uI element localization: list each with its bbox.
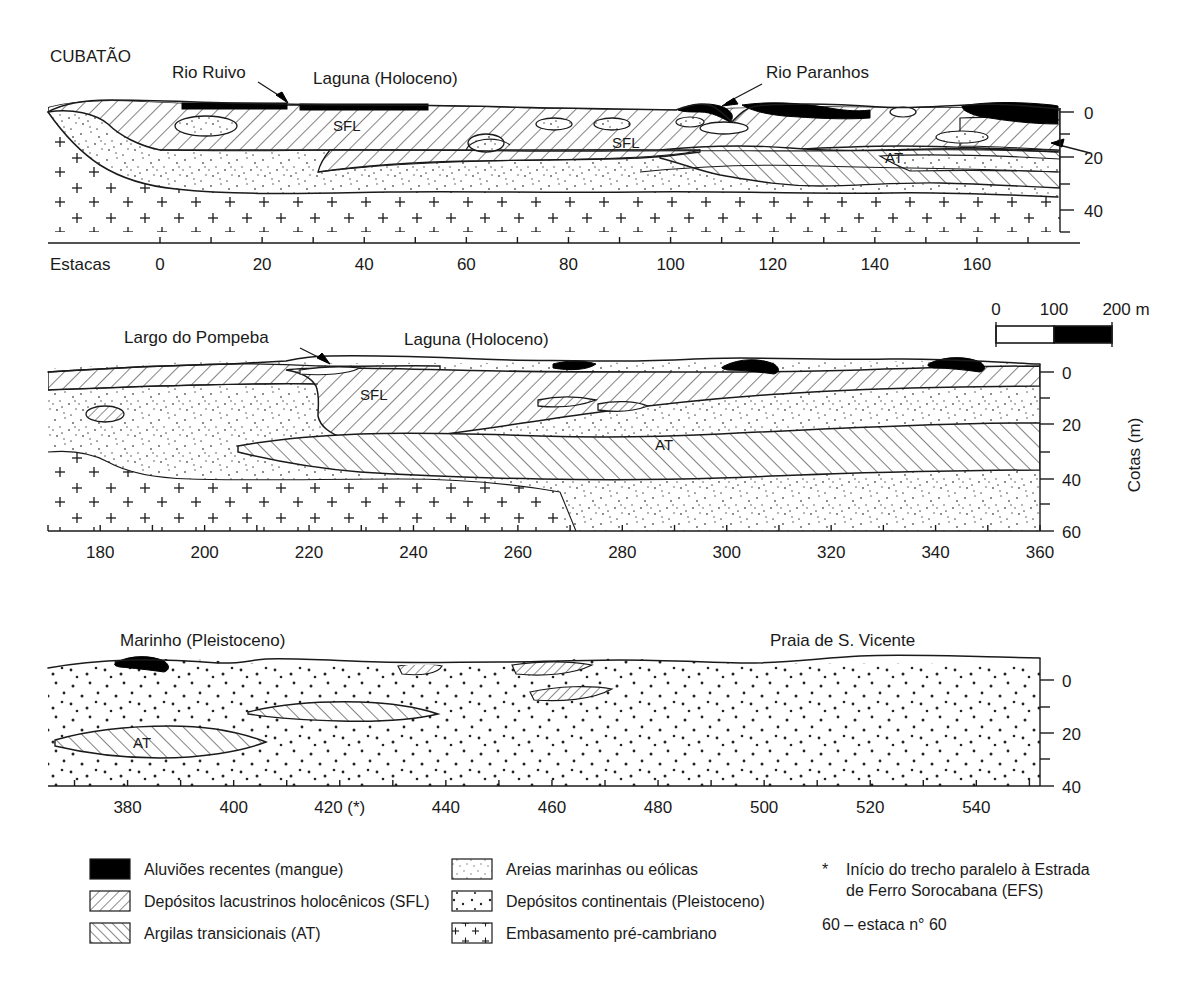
panel-1-label-rio-paranhos: Rio Paranhos xyxy=(766,63,869,82)
panel-1-x-tick-label: 60 xyxy=(457,255,476,274)
panel-3-label-praia: Praia de S. Vicente xyxy=(770,631,915,650)
panel-2-x-tick-label: 280 xyxy=(608,543,636,562)
panel-1-unit-sfl-left: SFL xyxy=(333,117,361,134)
panel-3-x-tick-label: 540 xyxy=(962,798,990,817)
panel-2-x-tick-label: 180 xyxy=(86,543,114,562)
legend-column-3: * Início do trecho paralelo à Estrada de… xyxy=(822,861,1090,933)
panel-3-y-ticks xyxy=(1040,680,1054,786)
scalebar-label-200: 200 m xyxy=(1102,300,1149,319)
legend-note-efs-line2: de Ferro Sorocabana (EFS) xyxy=(846,882,1043,899)
panel-1-ytick-20: 20 xyxy=(1084,149,1103,168)
panel-1-x-tick-label: 40 xyxy=(355,255,374,274)
panel-3-x-tick-label: 500 xyxy=(750,798,778,817)
panel-2-strata xyxy=(40,355,1050,535)
panel-3-ytick-0: 0 xyxy=(1062,672,1071,691)
panel-2-unit-at: AT xyxy=(655,436,673,453)
scalebar-label-0: 0 xyxy=(991,300,1000,319)
panel-2-x-tick-label: 300 xyxy=(713,543,741,562)
legend-column-1: Aluviões recentes (mangue) Depósitos lac… xyxy=(90,859,429,943)
panel-1-label-laguna: Laguna (Holoceno) xyxy=(313,69,458,88)
y-axis-title-cotas: Cotas (m) xyxy=(1125,418,1144,493)
panel-1-label-cubatao: CUBATÃO xyxy=(50,47,131,66)
estacas-label: Estacas xyxy=(50,255,110,274)
panel-3-x-tick-label: 460 xyxy=(538,798,566,817)
panel-3-unit-at: AT xyxy=(133,734,151,751)
scalebar-label-100: 100 xyxy=(1040,300,1068,319)
scale-bar: 0 100 200 m xyxy=(991,300,1149,347)
legend-swatch-solid-black xyxy=(90,859,130,879)
panel-2-ytick-40: 40 xyxy=(1062,471,1081,490)
legend-asterisk-marker: * xyxy=(822,861,828,878)
legend-item-continentais: Depósitos continentais (Pleistoceno) xyxy=(506,893,765,910)
legend-swatch-coarse-stipple xyxy=(452,891,492,911)
legend-item-sfl: Depósitos lacustrinos holocênicos (SFL) xyxy=(144,893,429,910)
panel-3: Marinho (Pleistoceno) Praia de S. Vicent… xyxy=(40,631,1081,817)
panel-2-unit-sfl: SFL xyxy=(360,386,388,403)
panel-2-label-largo-pompeba: Largo do Pompeba xyxy=(124,328,269,347)
panel-1-ytick-40: 40 xyxy=(1084,202,1103,221)
legend-note-efs-line1: Início do trecho paralelo à Estrada xyxy=(846,861,1090,878)
panel-3-label-marinho: Marinho (Pleistoceno) xyxy=(120,631,285,650)
panel-1-x-tick-label: 160 xyxy=(963,255,991,274)
figure-canvas: CUBATÃO Rio Ruivo Laguna (Holoceno) Rio … xyxy=(0,0,1178,1003)
panel-1-label-rio-ruivo: Rio Ruivo xyxy=(172,63,246,82)
panel-2: Largo do Pompeba Laguna (Holoceno) SFL A… xyxy=(40,328,1144,562)
legend-item-areias: Areias marinhas ou eólicas xyxy=(506,861,698,878)
panel-1-x-tick-labels: 020406080100120140160 xyxy=(155,255,991,274)
panel-2-ytick-20: 20 xyxy=(1062,416,1081,435)
panel-1-x-tick-label: 140 xyxy=(861,255,889,274)
panel-2-x-tick-label: 260 xyxy=(504,543,532,562)
panel-2-x-tick-label: 200 xyxy=(190,543,218,562)
panel-3-x-tick-label: 440 xyxy=(432,798,460,817)
panel-1-x-ticks xyxy=(160,237,1028,243)
panel-3-x-tick-label: 480 xyxy=(644,798,672,817)
legend-item-at: Argilas transicionais (AT) xyxy=(144,925,321,942)
panel-2-y-ticks xyxy=(1040,372,1054,531)
panel-2-x-tick-label: 340 xyxy=(921,543,949,562)
panel-3-x-tick-label: 520 xyxy=(856,798,884,817)
panel-1: CUBATÃO Rio Ruivo Laguna (Holoceno) Rio … xyxy=(40,47,1103,274)
panel-1-y-ticks xyxy=(1060,112,1074,232)
legend-swatch-plus-signs xyxy=(452,923,492,943)
panel-2-ytick-0: 0 xyxy=(1062,364,1071,383)
panel-2-x-tick-label: 320 xyxy=(817,543,845,562)
legend-item-embasamento: Embasamento pré-cambriano xyxy=(506,925,717,942)
panel-1-x-tick-label: 0 xyxy=(155,255,164,274)
geological-cross-section-figure: CUBATÃO Rio Ruivo Laguna (Holoceno) Rio … xyxy=(0,0,1178,1003)
panel-3-ytick-20: 20 xyxy=(1062,725,1081,744)
legend-swatch-hatch-forward xyxy=(90,891,130,911)
panel-1-x-tick-label: 100 xyxy=(656,255,684,274)
panel-3-ytick-40: 40 xyxy=(1062,778,1081,797)
panel-1-ytick-0: 0 xyxy=(1084,104,1093,123)
panel-2-x-tick-labels: 180200220240260280300320340360 xyxy=(86,543,1054,562)
legend-column-2: Areias marinhas ou eólicas Depósitos con… xyxy=(452,859,765,943)
panel-1-unit-at: AT xyxy=(885,149,903,166)
legend-note-estaca: 60 – estaca n° 60 xyxy=(822,916,947,933)
panel-3-x-tick-label: 400 xyxy=(219,798,247,817)
panel-3-strata xyxy=(40,650,1050,790)
panel-1-x-tick-label: 20 xyxy=(253,255,272,274)
legend-swatch-fine-stipple xyxy=(452,859,492,879)
panel-2-x-tick-label: 220 xyxy=(295,543,323,562)
legend-swatch-hatch-backward xyxy=(90,923,130,943)
panel-3-x-tick-label: 380 xyxy=(113,798,141,817)
panel-2-ytick-60: 60 xyxy=(1062,523,1081,542)
panel-1-unit-sfl-right: SFL xyxy=(612,134,640,151)
legend-item-aluvioes: Aluviões recentes (mangue) xyxy=(144,861,343,878)
panel-1-x-tick-label: 80 xyxy=(559,255,578,274)
panel-3-x-tick-label: 420 (*) xyxy=(314,798,365,817)
panel-2-x-tick-label: 240 xyxy=(399,543,427,562)
panel-1-x-tick-label: 120 xyxy=(759,255,787,274)
panel-2-x-tick-label: 360 xyxy=(1026,543,1054,562)
panel-2-label-laguna: Laguna (Holoceno) xyxy=(404,330,549,349)
panel-3-x-tick-labels: 380400420 (*)440460480500520540 xyxy=(113,798,990,817)
legend: Aluviões recentes (mangue) Depósitos lac… xyxy=(90,859,1090,943)
